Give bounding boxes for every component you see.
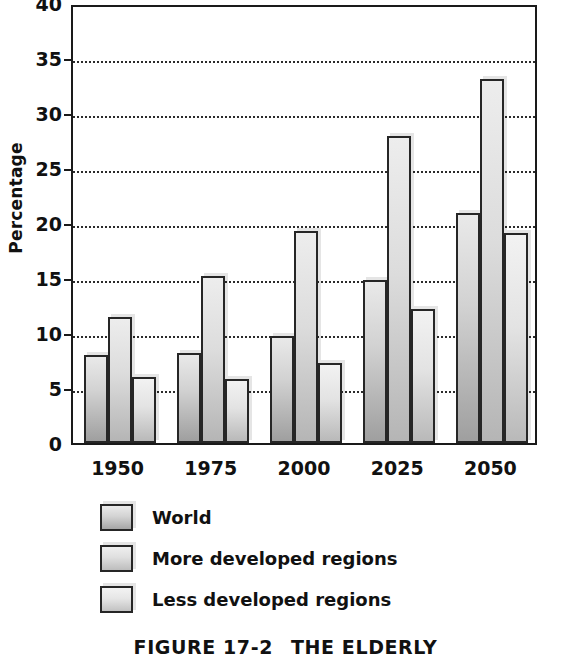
x-axis-tick-group: 19501975200020252050: [71, 457, 537, 485]
bar: [318, 363, 342, 443]
y-axis-tick-label: 10: [0, 325, 62, 344]
legend-label: More developed regions: [152, 548, 397, 569]
bar-group: [84, 7, 156, 443]
bar: [270, 336, 294, 443]
bar: [132, 377, 156, 443]
bar: [294, 231, 318, 443]
legend-item: More developed regions: [100, 538, 520, 579]
bar: [480, 79, 504, 443]
x-axis-tick-label: 2050: [444, 457, 537, 479]
x-axis-tick-label: 2000: [257, 457, 350, 479]
y-axis-tick-label: 15: [0, 270, 62, 289]
bar: [84, 355, 108, 443]
legend-swatch: [100, 504, 133, 531]
bar: [201, 276, 225, 443]
legend-swatch: [100, 545, 133, 572]
bar: [363, 280, 387, 443]
y-axis-tick-group: 0510152025303540: [0, 0, 71, 654]
bar-group: [363, 7, 435, 443]
y-axis-tick-label: 25: [0, 160, 62, 179]
bar: [225, 379, 249, 443]
bar: [387, 136, 411, 443]
bar: [456, 213, 480, 443]
x-axis-tick-label: 2025: [351, 457, 444, 479]
y-axis-tick-label: 30: [0, 105, 62, 124]
y-axis-tick-label: 35: [0, 50, 62, 69]
bar: [177, 353, 201, 443]
figure-title: THE ELDERLY: [291, 636, 437, 654]
bar: [504, 233, 528, 443]
bar-group: [177, 7, 249, 443]
y-axis-tick-label: 20: [0, 215, 62, 234]
bar-group: [270, 7, 342, 443]
bar: [411, 309, 435, 443]
y-axis-tick-label: 40: [0, 0, 62, 14]
y-axis-tick-label: 5: [0, 380, 62, 399]
figure-number: FIGURE 17-2: [134, 636, 273, 654]
figure-caption: FIGURE 17-2THE ELDERLY: [0, 636, 571, 654]
legend-item: World: [100, 497, 520, 538]
y-axis-tick-label: 0: [0, 435, 62, 454]
legend-swatch: [100, 586, 133, 613]
x-axis-tick-label: 1950: [71, 457, 164, 479]
chart-legend: WorldMore developed regionsLess develope…: [100, 497, 520, 620]
legend-label: World: [152, 507, 212, 528]
bar-group: [456, 7, 528, 443]
x-axis-tick-label: 1975: [164, 457, 257, 479]
bar: [108, 317, 132, 444]
legend-label: Less developed regions: [152, 589, 391, 610]
legend-item: Less developed regions: [100, 579, 520, 620]
plot-area: [71, 5, 537, 445]
figure-container: Percentage 0510152025303540 195019752000…: [0, 0, 571, 654]
